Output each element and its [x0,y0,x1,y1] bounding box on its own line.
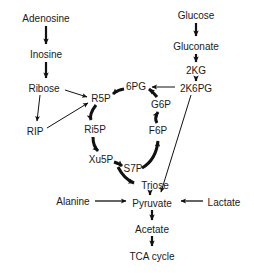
node-rip: RIP [27,126,44,137]
pathway-diagram: AdenosineInosineRiboseRIPR5PRi5PXu5PS7P6… [0,0,254,273]
edge-6pg-to-r5p [113,89,124,94]
node-ri5p: Ri5P [84,124,106,135]
node-xu5p: Xu5P [89,154,113,165]
edge-r5p-to-ri5p [91,105,96,120]
edge-ribose-to-rip [37,95,40,121]
node-glucose: Glucose [178,10,215,21]
edge-s7p-to-f6p [142,141,158,168]
node-triose: Triose [141,180,168,191]
node-tca_cycle: TCA cycle [129,251,174,262]
edge-rip-to-r5p [47,103,88,128]
node-adenosine: Adenosine [22,13,69,24]
node-inosine: Inosine [30,49,62,60]
node-two_kg: 2KG [186,65,206,76]
edge-ri5p-to-xu5p [93,137,98,151]
node-r5p: R5P [91,93,110,104]
node-f6p: F6P [149,125,167,136]
node-lactate: Lactate [208,197,241,208]
node-acetate: Acetate [135,224,169,235]
node-alanine: Alanine [56,196,89,207]
node-ribose: Ribose [28,83,59,94]
edge-xu5p-to-s7p [114,162,122,166]
node-six_pg: 6PG [126,81,146,92]
node-gluconate: Gluconate [173,41,219,52]
edge-g6p-to-6pg [149,89,157,97]
node-two_k6pg: 2K6PG [180,83,212,94]
node-s7p: S7P [124,163,143,174]
edge-ribose-to-r5p [65,90,87,97]
node-g6p: G6P [151,99,171,110]
edge-2k6pg-to-pyruvate [161,95,191,192]
node-pyruvate: Pyruvate [132,198,171,209]
edge-f6p-to-g6p [156,112,158,123]
